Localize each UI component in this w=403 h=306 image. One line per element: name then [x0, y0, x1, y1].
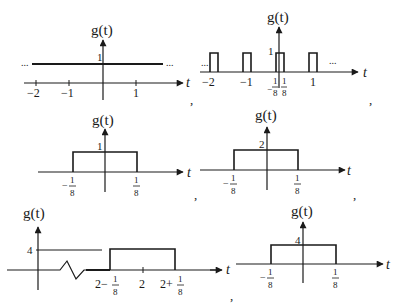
panel-rect-height-2: g(t) 2 − 1 8 1 8 t , [200, 107, 356, 202]
frac-num: 1 [273, 76, 278, 86]
tick-label: 2 [139, 277, 145, 291]
neg-sign: − [260, 272, 266, 283]
frac-num: 1 [70, 175, 75, 185]
frac-den: 8 [134, 188, 139, 198]
x-axis-label: t [226, 262, 231, 277]
frac-den: 8 [178, 287, 183, 297]
y-axis-label: g(t) [267, 9, 289, 26]
tick-label: 1 [133, 86, 139, 100]
comma-separator: , [194, 187, 197, 202]
neg-sign: − [223, 178, 229, 189]
y-axis-label: g(t) [92, 112, 114, 129]
frac-den: 8 [70, 188, 75, 198]
figure-canvas: g(t) 1 ... ... −2 −1 1 t , g(t) 1 ... ..… [0, 0, 403, 306]
frac-den: 8 [268, 280, 273, 290]
tick-label: −1 [61, 86, 74, 100]
panel-rect-height-1: g(t) 1 − 1 8 1 8 t , [38, 112, 197, 202]
panel-constant: g(t) 1 ... ... −2 −1 1 t , [21, 22, 193, 107]
level-label: 1 [97, 51, 103, 63]
frac-den: 8 [333, 280, 338, 290]
tick-label: −1 [240, 75, 253, 89]
x-axis-label: t [386, 257, 391, 272]
y-axis-label: g(t) [23, 205, 45, 222]
level-label: 1 [97, 140, 103, 152]
y-axis-label: g(t) [291, 203, 313, 220]
panel-rect-height-4: g(t) 4 − 1 8 1 8 t [236, 203, 391, 290]
tick-label: −2 [27, 86, 40, 100]
frac-den: 8 [113, 287, 118, 297]
ellipsis-left: ... [21, 57, 29, 68]
panel-shifted-rect-height-4: g(t) 4 2− 1 8 2 2+ 1 8 t , [7, 205, 233, 303]
frac-den: 8 [273, 88, 278, 98]
pulse-train-signal [210, 53, 317, 72]
frac-num: 1 [178, 274, 183, 284]
tick-label-prefix: 2− [95, 277, 108, 291]
frac-den: 8 [231, 186, 236, 196]
x-axis-label: t [186, 75, 191, 90]
frac-num: 1 [295, 173, 300, 183]
ellipsis-right: ... [329, 55, 337, 66]
y-axis-label: g(t) [91, 22, 113, 39]
neg-sign: − [267, 84, 272, 94]
x-axis-label: t [187, 165, 192, 180]
frac-num: 1 [113, 274, 118, 284]
frac-num: 1 [268, 267, 273, 277]
comma-separator: , [353, 187, 356, 202]
y-axis-label: g(t) [255, 107, 277, 124]
frac-den: 8 [282, 88, 287, 98]
neg-sign: − [62, 180, 68, 191]
comma-separator: , [369, 92, 372, 107]
tick-label: −2 [202, 75, 215, 89]
comma-separator: , [190, 92, 193, 107]
level-label: 4 [295, 234, 301, 246]
tick-label-prefix: 2+ [160, 277, 173, 291]
frac-num: 1 [282, 76, 287, 86]
rect-signal [110, 249, 175, 270]
tick-label: 1 [310, 75, 316, 89]
frac-num: 1 [333, 267, 338, 277]
level-label: 4 [27, 244, 33, 256]
level-label: 1 [268, 45, 274, 57]
frac-num: 1 [231, 173, 236, 183]
panel-pulse-train: g(t) 1 ... ... −2 −1 1 − 1 8 1 8 t , [200, 9, 372, 107]
ellipsis-right: ... [166, 57, 174, 68]
ellipsis-left: ... [201, 57, 209, 68]
frac-num: 1 [134, 175, 139, 185]
x-axis-label: t [363, 65, 368, 80]
comma-separator: , [230, 288, 233, 303]
rect-signal [234, 150, 298, 170]
level-label: 2 [259, 138, 265, 150]
x-axis-label: t [347, 163, 352, 178]
frac-den: 8 [295, 186, 300, 196]
